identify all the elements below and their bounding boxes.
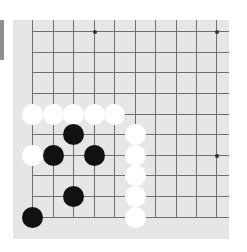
black-stone	[63, 124, 84, 145]
white-stone	[125, 165, 146, 186]
black-stone	[63, 186, 84, 207]
grid-line-vertical	[196, 20, 197, 218]
white-stone	[63, 104, 84, 125]
grid-line-horizontal	[32, 52, 229, 53]
white-stone	[84, 104, 105, 125]
grid-line-horizontal	[32, 72, 229, 73]
white-stone	[125, 124, 146, 145]
grid-line-horizontal	[32, 93, 229, 94]
white-stone	[125, 145, 146, 166]
star-point	[215, 30, 219, 34]
white-stone	[125, 186, 146, 207]
white-stone	[22, 145, 43, 166]
white-stone	[43, 104, 64, 125]
white-stone	[22, 104, 43, 125]
black-stone	[84, 145, 105, 166]
grid-line-vertical	[155, 20, 156, 218]
star-point	[215, 154, 219, 158]
grid-line-horizontal	[32, 31, 229, 32]
grid-line-vertical	[216, 20, 217, 218]
black-stone	[22, 207, 43, 228]
star-point	[93, 30, 97, 34]
go-board[interactable]	[0, 0, 247, 252]
black-stone	[43, 145, 64, 166]
grid-line-vertical	[176, 20, 177, 218]
white-stone	[125, 207, 146, 228]
white-stone	[104, 104, 125, 125]
